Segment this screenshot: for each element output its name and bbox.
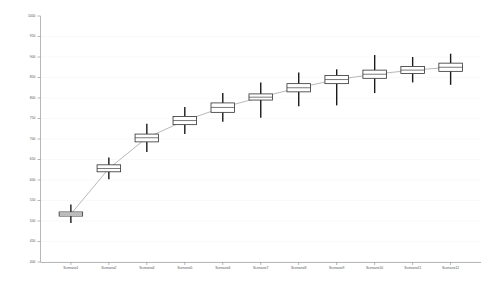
y-tick-label: 400 [30, 260, 36, 264]
y-tick-label: 1000 [28, 14, 36, 18]
boxplot-chart: 1000950900850800750700650600550500450400… [0, 0, 492, 288]
y-tick-label: 600 [30, 178, 36, 182]
x-tick-label: Scenario11 [404, 266, 421, 270]
chart-background [0, 0, 492, 288]
y-tick-label: 800 [30, 96, 36, 100]
x-tick-label: Scenario10 [366, 266, 383, 270]
x-tick-label: Scenario5 [177, 266, 192, 270]
y-tick-label: 650 [30, 157, 36, 161]
x-tick-label: Scenario7 [253, 266, 268, 270]
y-tick-label: 700 [30, 137, 36, 141]
y-tick-label: 850 [30, 75, 36, 79]
y-tick-label: 900 [30, 55, 36, 59]
x-tick-label: Scenario9 [329, 266, 344, 270]
x-tick-label: Scenario12 [442, 266, 459, 270]
x-tick-label: Scenario6 [215, 266, 230, 270]
x-tick-label: Scenario4 [139, 266, 154, 270]
x-tick-label: Scenario1 [63, 266, 78, 270]
y-tick-label: 450 [30, 239, 36, 243]
y-tick-label: 750 [30, 116, 36, 120]
x-tick-label: Scenario2 [101, 266, 116, 270]
y-tick-label: 500 [30, 219, 36, 223]
y-tick-label: 550 [30, 198, 36, 202]
chart-canvas: 1000950900850800750700650600550500450400… [0, 0, 492, 288]
y-tick-label: 950 [30, 34, 36, 38]
x-tick-label: Scenario8 [291, 266, 306, 270]
